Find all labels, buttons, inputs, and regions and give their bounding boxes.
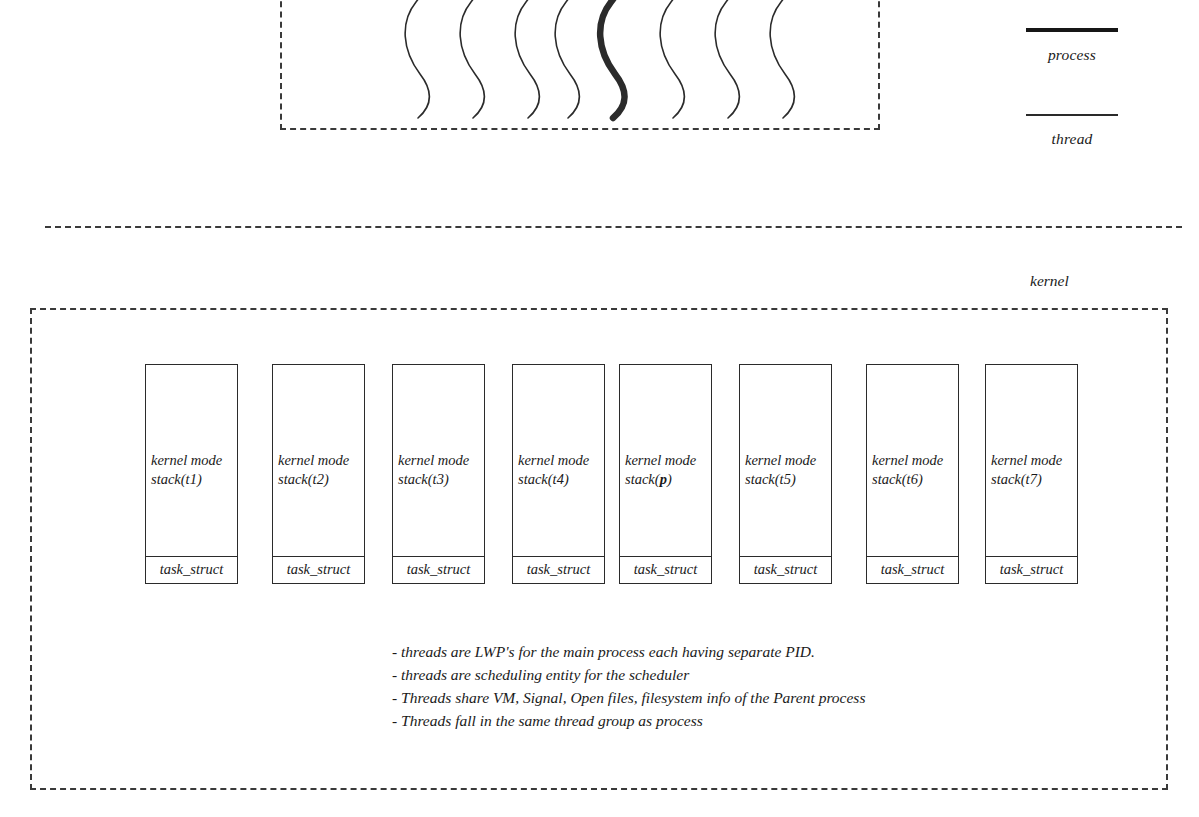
kernel-mode-stack-label: kernel modestack(t2): [278, 451, 349, 489]
kernel-mode-stack-label: kernel modestack(t6): [872, 451, 943, 489]
legend-thread-label: thread: [1012, 130, 1132, 148]
task-struct-box: task_struct: [740, 556, 831, 583]
kernel-note-line: - Threads share VM, Signal, Open files, …: [392, 686, 865, 709]
task-column: kernel modestack(t1)task_struct: [145, 364, 238, 584]
user-kernel-divider: [45, 226, 1182, 228]
kernel-mode-stack-box: kernel modestack(t1): [146, 365, 237, 557]
task-column: kernel modestack(p)task_struct: [619, 364, 712, 584]
kernel-mode-stack-label: kernel modestack(p): [625, 451, 696, 489]
task-struct-box: task_struct: [513, 556, 604, 583]
kernel-mode-stack-label: kernel modestack(t4): [518, 451, 589, 489]
kernel-mode-stack-label: kernel modestack(t5): [745, 451, 816, 489]
kernel-note-line: - threads are LWP's for the main process…: [392, 640, 865, 663]
task-column-group: kernel modestack(t1)task_structkernel mo…: [145, 364, 1080, 584]
task-column: kernel modestack(t2)task_struct: [272, 364, 365, 584]
task-column: kernel modestack(t5)task_struct: [739, 364, 832, 584]
kernel-note-line: - Threads fall in the same thread group …: [392, 709, 865, 732]
kernel-mode-stack-box: kernel modestack(t4): [513, 365, 604, 557]
legend-process-label: process: [1012, 46, 1132, 64]
kernel-notes-list: - threads are LWP's for the main process…: [392, 640, 865, 732]
legend-process-line: [1026, 28, 1118, 32]
task-column: kernel modestack(t4)task_struct: [512, 364, 605, 584]
legend: process thread: [1012, 14, 1132, 148]
task-column: kernel modestack(t7)task_struct: [985, 364, 1078, 584]
kernel-mode-stack-box: kernel modestack(t2): [273, 365, 364, 557]
task-struct-box: task_struct: [273, 556, 364, 583]
kernel-mode-stack-box: kernel modestack(p): [620, 365, 711, 557]
kernel-mode-stack-box: kernel modestack(t5): [740, 365, 831, 557]
kernel-mode-stack-box: kernel modestack(t3): [393, 365, 484, 557]
kernel-note-line: - threads are scheduling entity for the …: [392, 663, 865, 686]
task-struct-box: task_struct: [986, 556, 1077, 583]
task-column: kernel modestack(t3)task_struct: [392, 364, 485, 584]
kernel-label: kernel: [1030, 272, 1069, 290]
kernel-mode-stack-label: kernel modestack(t7): [991, 451, 1062, 489]
kernel-mode-stack-box: kernel modestack(t6): [867, 365, 958, 557]
task-struct-box: task_struct: [620, 556, 711, 583]
legend-thread-line: [1026, 114, 1118, 116]
user-space-dashed-box: [280, 0, 880, 130]
task-column: kernel modestack(t6)task_struct: [866, 364, 959, 584]
kernel-mode-stack-label: kernel modestack(t1): [151, 451, 222, 489]
kernel-mode-stack-box: kernel modestack(t7): [986, 365, 1077, 557]
kernel-mode-stack-label: kernel modestack(t3): [398, 451, 469, 489]
task-struct-box: task_struct: [393, 556, 484, 583]
task-struct-box: task_struct: [146, 556, 237, 583]
task-struct-box: task_struct: [867, 556, 958, 583]
diagram-canvas: process thread kernel kernel modestack(t…: [0, 0, 1199, 817]
